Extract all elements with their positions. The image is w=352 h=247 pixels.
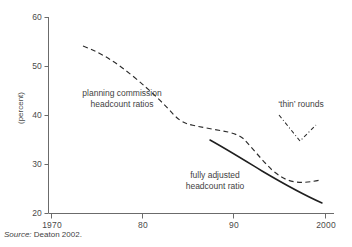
annotation-fully-adjusted: fully adjusted headcount ratio bbox=[155, 170, 275, 192]
source-prefix: Source: bbox=[4, 230, 32, 239]
y-tick-label-20: 20 bbox=[22, 209, 42, 218]
x-tick-label-1970: 1970 bbox=[32, 221, 72, 230]
x-tick-label-2000: 2000 bbox=[306, 221, 346, 230]
annotation-adjusted-line-2: headcount ratio bbox=[155, 181, 275, 192]
annotation-planning-line-1: planning commission bbox=[57, 88, 187, 99]
y-axis-title: (percent) bbox=[17, 78, 25, 138]
annotation-planning-commission: planning commission headcount ratios bbox=[57, 88, 187, 110]
source-note: Source: Deaton 2002. bbox=[4, 231, 82, 239]
y-tick-label-60: 60 bbox=[22, 13, 42, 22]
series-planning-commission bbox=[83, 46, 320, 182]
annotation-thin-rounds: ‘thin’ rounds bbox=[256, 99, 346, 110]
series-thin-rounds bbox=[279, 115, 316, 141]
x-axis-ticks bbox=[52, 214, 326, 219]
y-tick-label-30: 30 bbox=[22, 160, 42, 169]
source-text: Deaton 2002. bbox=[34, 230, 82, 239]
x-tick-label-80: 80 bbox=[123, 221, 163, 230]
y-axis-ticks bbox=[45, 18, 49, 214]
x-tick-label-90: 90 bbox=[214, 221, 254, 230]
annotation-planning-line-2: headcount ratios bbox=[57, 99, 187, 110]
annotation-adjusted-line-1: fully adjusted bbox=[155, 170, 275, 181]
y-tick-label-50: 50 bbox=[22, 62, 42, 71]
y-tick-label-40: 40 bbox=[22, 111, 42, 120]
chart-canvas bbox=[0, 0, 352, 247]
figure-container: 60 50 40 30 20 1970 80 90 2000 (percent)… bbox=[0, 0, 352, 247]
